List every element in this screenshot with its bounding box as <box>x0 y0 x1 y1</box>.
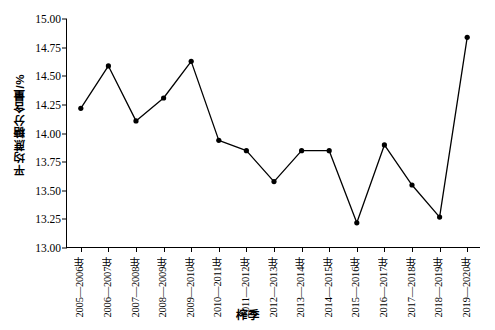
y-axis-tick-label: 13.50 <box>35 185 67 197</box>
x-axis-tick-label-text: 2012—2013年 <box>266 256 281 318</box>
data-series-layer <box>67 19 481 248</box>
x-axis-tick-label-text: 2011—2012年 <box>238 256 253 317</box>
x-axis-tick-label-text: 2015—2016年 <box>348 256 363 318</box>
plot-area: 15.0014.7514.5014.2514.0013.7513.5013.25… <box>66 19 480 248</box>
x-axis-tick-label: 2007—2008年 <box>128 256 142 318</box>
x-axis-tick-label: 2008—2009年 <box>156 256 170 318</box>
x-axis-tick-label-text: 2009—2010年 <box>183 256 198 318</box>
chart-figure: 平均蔗糖分含量/% 15.0014.7514.5014.2514.0013.75… <box>0 0 495 330</box>
x-axis-tick-label: 2014—2015年 <box>321 256 335 318</box>
x-axis-tick-label: 2015—2016年 <box>349 256 363 318</box>
x-axis-tick-label-text: 2014—2015年 <box>321 256 336 318</box>
x-axis-tick-label-text: 2007—2008年 <box>128 256 143 318</box>
y-axis-title-text: 平均蔗糖分含量/% <box>12 74 28 176</box>
y-axis-tick-label: 13.25 <box>35 213 67 225</box>
data-point-marker <box>189 59 194 64</box>
y-axis-tick-label: 14.00 <box>35 128 67 140</box>
data-point-marker <box>437 214 442 219</box>
x-axis-tick-label: 2012—2013年 <box>266 256 280 318</box>
y-axis-tick-label: 14.50 <box>35 70 67 82</box>
data-point-marker <box>244 148 249 153</box>
x-axis-tick-label-text: 2010—2011年 <box>210 256 225 317</box>
x-axis-tick-label: 2010—2011年 <box>211 256 225 318</box>
series-line <box>81 37 467 222</box>
y-axis-tick-label: 13.00 <box>35 242 67 254</box>
x-axis-tick-label: 2006—2007年 <box>100 256 114 318</box>
y-axis-tick-label: 13.75 <box>35 156 67 168</box>
data-point-marker <box>382 142 387 147</box>
data-point-marker <box>78 106 83 111</box>
data-point-marker <box>161 95 166 100</box>
y-axis-tick-label: 14.75 <box>35 42 67 54</box>
x-axis-tick-label-text: 2017—2018年 <box>404 256 419 318</box>
data-point-marker <box>271 179 276 184</box>
data-point-marker <box>327 148 332 153</box>
x-axis-tick-label: 2009—2010年 <box>183 256 197 318</box>
x-axis-tick-label-text: 2008—2009年 <box>155 256 170 318</box>
x-axis-tick-label: 2013—2014年 <box>294 256 308 318</box>
x-axis-tick-label: 2019—2020年 <box>459 256 473 318</box>
x-axis-tick-label: 2017—2018年 <box>404 256 418 318</box>
data-point-marker <box>216 138 221 143</box>
data-point-marker <box>409 182 414 187</box>
data-point-marker <box>354 220 359 225</box>
x-axis-tick-label-text: 2005—2006年 <box>72 256 87 318</box>
data-point-marker <box>133 118 138 123</box>
data-point-marker <box>299 148 304 153</box>
y-axis-title: 平均蔗糖分含量/% <box>8 0 32 250</box>
x-axis-tick-label-text: 2019—2020年 <box>459 256 474 318</box>
data-point-marker <box>465 35 470 40</box>
x-axis-tick-label: 2005—2006年 <box>73 256 87 318</box>
x-axis-tick-label-text: 2006—2007年 <box>100 256 115 318</box>
data-point-marker <box>106 63 111 68</box>
y-axis-tick-label: 14.25 <box>35 99 67 111</box>
y-axis-tick-label: 15.00 <box>35 13 67 25</box>
x-axis-tick-label: 2016—2017年 <box>376 256 390 318</box>
x-axis-tick-label-text: 2013—2014年 <box>293 256 308 318</box>
x-axis-tick-label-text: 2018—2019年 <box>431 256 446 318</box>
x-axis-tick-label-text: 2016—2017年 <box>376 256 391 318</box>
x-axis-tick-label: 2011—2012年 <box>238 256 252 318</box>
x-axis-tick-label: 2018—2019年 <box>432 256 446 318</box>
